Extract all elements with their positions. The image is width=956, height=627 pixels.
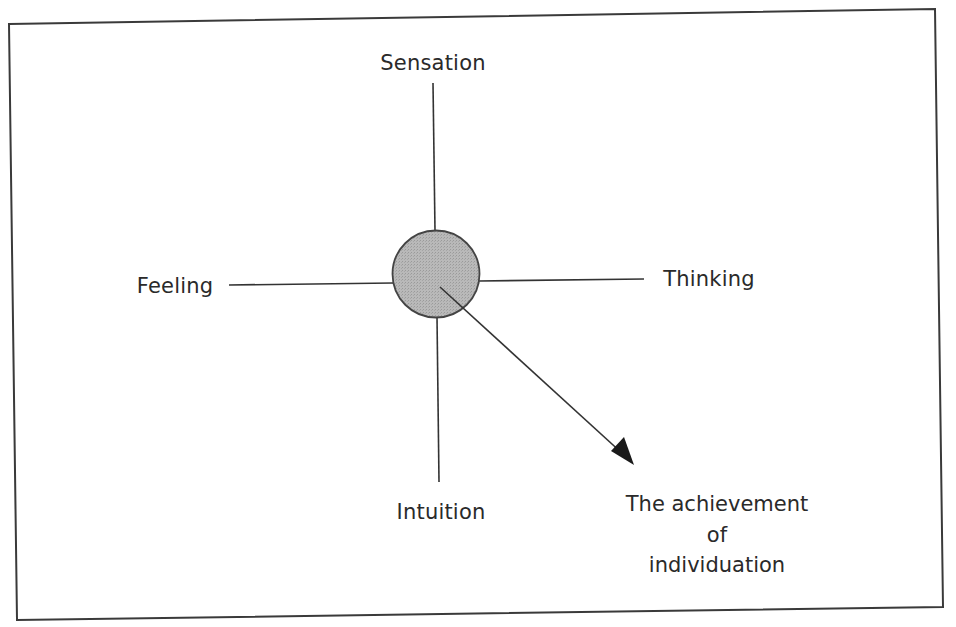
arrowhead-icon bbox=[611, 437, 634, 465]
axis-line-top bbox=[433, 83, 435, 231]
diagram-canvas bbox=[0, 0, 956, 627]
individuation-line-2: of bbox=[626, 520, 808, 551]
axis-line-bottom bbox=[437, 317, 439, 482]
label-sensation: Sensation bbox=[380, 53, 485, 74]
individuation-line-1: The achievement bbox=[626, 489, 808, 520]
axis-line-left bbox=[229, 283, 393, 285]
axis-line-right bbox=[479, 279, 644, 281]
label-individuation: The achievement of individuation bbox=[626, 489, 808, 581]
individuation-line-3: individuation bbox=[626, 550, 808, 581]
label-feeling: Feeling bbox=[137, 276, 213, 297]
center-circle bbox=[393, 231, 480, 318]
label-thinking: Thinking bbox=[663, 269, 755, 290]
individuation-arrow-shaft bbox=[440, 287, 624, 455]
label-intuition: Intuition bbox=[397, 502, 486, 523]
